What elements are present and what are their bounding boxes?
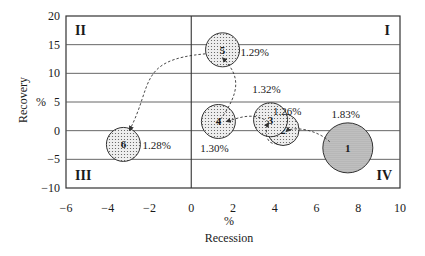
y-axis-unit: % bbox=[36, 95, 46, 109]
x-tick-label: 4 bbox=[272, 201, 278, 215]
bubble-size-label: 1.28% bbox=[142, 139, 170, 151]
y-tick-label: 0 bbox=[54, 124, 60, 138]
bubble-number: 1 bbox=[345, 142, 351, 154]
bubble-size-label: 1.30% bbox=[200, 142, 228, 154]
x-tick-label: −2 bbox=[143, 201, 156, 215]
x-tick-label: 2 bbox=[230, 201, 236, 215]
bubble-chart: IIIIIIIV −10−505101520−6−4−20246810 6542… bbox=[0, 0, 425, 256]
bubble-1: 1 bbox=[323, 123, 373, 173]
y-tick-label: 15 bbox=[48, 38, 60, 52]
quadrant-label: II bbox=[75, 23, 86, 38]
y-tick-label: 20 bbox=[48, 9, 60, 23]
bubble-4: 4 bbox=[201, 104, 235, 138]
x-axis-unit: % bbox=[224, 214, 234, 228]
quadrant-label: III bbox=[75, 168, 91, 183]
bubble-size-label: 1.32% bbox=[252, 83, 280, 95]
x-tick-label: 6 bbox=[314, 201, 320, 215]
bubble-number: 4 bbox=[216, 115, 222, 127]
y-axis-label: Recovery bbox=[16, 77, 30, 123]
bubble-size-label: 1.83% bbox=[332, 108, 360, 120]
y-tick-label: −5 bbox=[47, 152, 60, 166]
x-tick-label: 0 bbox=[188, 201, 194, 215]
bubble-size-label: 1.26% bbox=[273, 105, 301, 117]
bubble-5: 5 bbox=[206, 33, 240, 67]
bubble-number: 6 bbox=[121, 138, 127, 150]
quadrant-label: I bbox=[385, 23, 390, 38]
x-tick-label: −4 bbox=[101, 201, 114, 215]
quadrant-label: IV bbox=[376, 168, 392, 183]
x-tick-label: −6 bbox=[60, 201, 73, 215]
x-axis-label: Recession bbox=[205, 231, 254, 245]
bubble-number: 5 bbox=[220, 44, 226, 56]
y-tick-label: 5 bbox=[54, 95, 60, 109]
bubble-6: 6 bbox=[106, 127, 140, 161]
bubble-size-label: 1.29% bbox=[241, 46, 269, 58]
y-tick-label: −10 bbox=[41, 181, 60, 195]
x-tick-label: 8 bbox=[355, 201, 361, 215]
x-tick-label: 10 bbox=[394, 201, 406, 215]
y-tick-label: 10 bbox=[48, 66, 60, 80]
